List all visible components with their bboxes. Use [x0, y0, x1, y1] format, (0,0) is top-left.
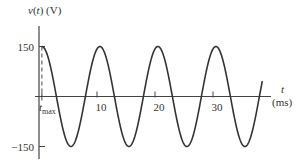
x-tick-label-2: 30: [212, 101, 224, 113]
x-axis-label-unit: (ms): [272, 96, 293, 109]
t-max-subscript: max: [42, 107, 56, 116]
x-tick-label-1: 20: [154, 101, 166, 113]
y-tick-label-1: −150: [11, 141, 34, 153]
y-label-unit: (V): [43, 4, 61, 17]
chart: 150−150 102030 v(t) (V) t (ms) tmax: [0, 0, 302, 166]
x-axis-label-var: t: [281, 83, 285, 95]
x-tick-label-0: 10: [96, 101, 108, 113]
y-tick-label-0: 150: [18, 41, 35, 53]
t-max-label: tmax: [39, 101, 56, 116]
y-axis-label: v(t) (V): [28, 4, 62, 17]
